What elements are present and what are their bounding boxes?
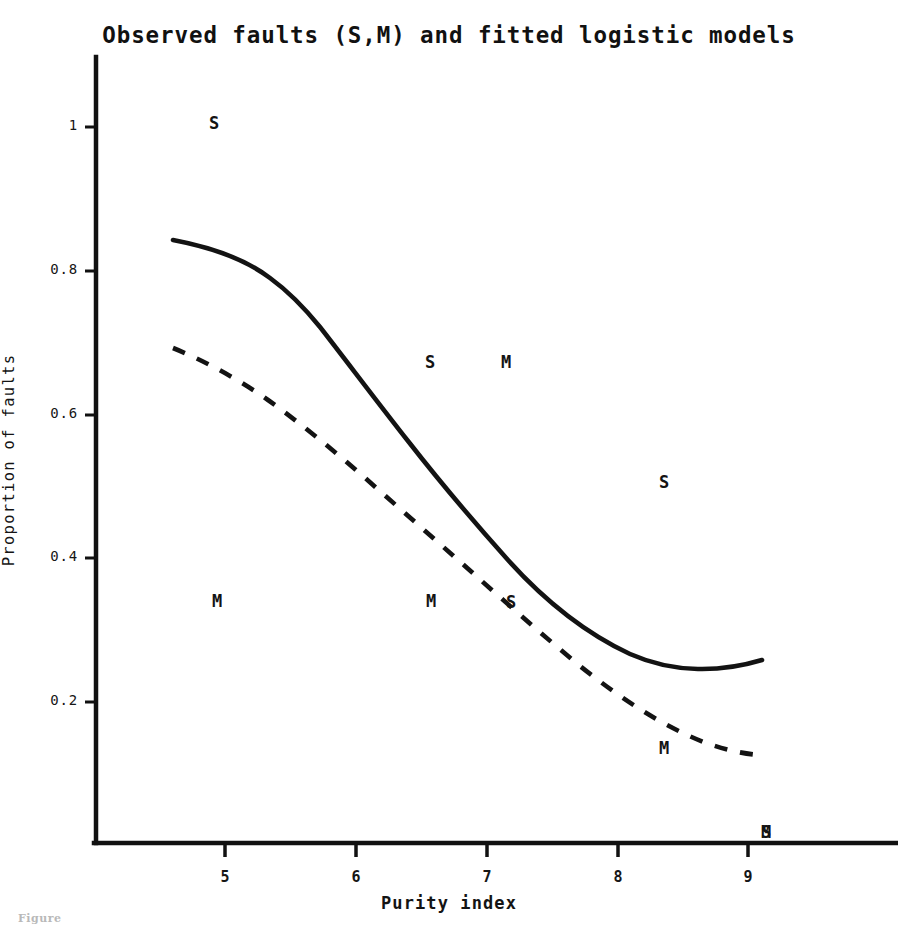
y-tick-label: 0.8 bbox=[8, 261, 78, 277]
x-tick-label: 5 bbox=[205, 868, 245, 886]
data-point-marker: S bbox=[654, 472, 674, 492]
figure-caption-fragment: Figure bbox=[18, 912, 61, 925]
y-tick-label: 0.2 bbox=[8, 692, 78, 708]
data-point-marker: M bbox=[756, 822, 776, 842]
series-line-s bbox=[173, 240, 762, 669]
data-point-marker: M bbox=[421, 591, 441, 611]
x-tick-label: 6 bbox=[336, 868, 376, 886]
y-tick-label: 0.6 bbox=[8, 405, 78, 421]
data-point-marker: S bbox=[204, 113, 224, 133]
series-line-m bbox=[173, 348, 760, 755]
x-tick-label: 7 bbox=[467, 868, 507, 886]
data-point-marker: S bbox=[501, 592, 521, 612]
data-point-marker: M bbox=[654, 738, 674, 758]
axis-lines bbox=[94, 57, 898, 843]
y-tick-label: 1 bbox=[8, 117, 78, 133]
y-tick-label: 0.4 bbox=[8, 548, 78, 564]
data-point-marker: M bbox=[207, 591, 227, 611]
x-axis-title: Purity index bbox=[0, 893, 898, 913]
data-point-marker: M bbox=[496, 352, 516, 372]
data-point-marker: S bbox=[420, 352, 440, 372]
x-tick-label: 8 bbox=[598, 868, 638, 886]
y-axis-title: Proportion of faults bbox=[0, 330, 18, 590]
x-tick-label: 9 bbox=[728, 868, 768, 886]
figure-container: Observed faults (S,M) and fitted logisti… bbox=[0, 0, 898, 935]
chart-canvas bbox=[0, 0, 898, 935]
